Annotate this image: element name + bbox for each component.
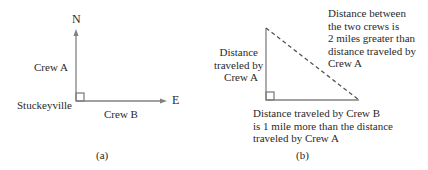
vertical-side-label-line: Crew A xyxy=(214,71,258,84)
vertical-side-label: Distance traveled by Crew A xyxy=(214,46,258,84)
right-angle-marker-icon xyxy=(266,92,274,100)
hypotenuse-label-line: distance traveled by xyxy=(328,45,416,58)
crew-b-label: Crew B xyxy=(104,108,138,121)
east-label: E xyxy=(172,94,179,107)
vertical-side-label-line: traveled by xyxy=(214,59,258,72)
base-side-label-line: is 1 mile more than the distance xyxy=(253,120,393,133)
right-angle-marker-icon xyxy=(76,93,84,101)
caption-b: (b) xyxy=(296,149,309,162)
base-side-label-line: traveled by Crew A xyxy=(253,132,393,145)
north-arrow-icon xyxy=(74,29,79,36)
vertical-side-label-line: Distance xyxy=(214,46,258,59)
hypotenuse-label-line: Distance between xyxy=(328,7,416,20)
caption-a: (a) xyxy=(96,149,108,162)
north-label: N xyxy=(72,13,81,26)
base-side-label: Distance traveled by Crew B is 1 mile mo… xyxy=(253,107,393,145)
panel-a-axes xyxy=(74,29,168,104)
hypotenuse-label-line: the two crews is xyxy=(328,20,416,33)
hypotenuse-label: Distance between the two crews is 2 mile… xyxy=(328,7,416,70)
hypotenuse-label-line: Crew A xyxy=(328,57,416,70)
hypotenuse-label-line: 2 miles greater than xyxy=(328,32,416,45)
origin-label: Stuckeyville xyxy=(17,99,72,112)
crew-a-label: Crew A xyxy=(34,61,68,74)
base-side-label-line: Distance traveled by Crew B xyxy=(253,107,393,120)
east-arrow-icon xyxy=(160,99,167,104)
